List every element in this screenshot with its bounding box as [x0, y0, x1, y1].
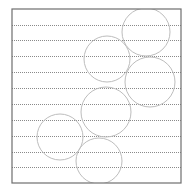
diagram-canvas [0, 0, 187, 193]
circle-2 [84, 36, 130, 82]
circle-1 [122, 8, 170, 56]
circle-6 [76, 138, 122, 184]
dotted-guide-lines [12, 26, 181, 168]
circle-4 [81, 87, 131, 137]
circles [37, 8, 175, 184]
frame-border [12, 9, 181, 183]
circle-3 [125, 57, 175, 107]
